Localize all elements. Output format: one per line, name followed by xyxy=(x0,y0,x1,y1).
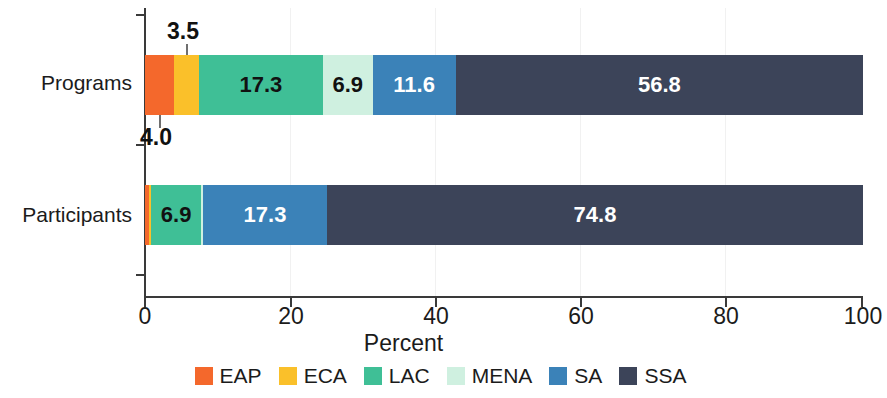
legend-swatch-eap-icon xyxy=(195,367,213,385)
bar-programs: 17.3 6.9 11.6 56.8 xyxy=(145,55,863,115)
bar-segment-participants-lac: 6.9 xyxy=(151,185,201,245)
y-axis-tick-bottom xyxy=(136,274,145,276)
legend-swatch-mena-icon xyxy=(447,367,465,385)
x-axis-tick-0-top xyxy=(144,289,146,298)
callout-line-programs-eca xyxy=(186,44,188,55)
bar-segment-programs-ssa: 56.8 xyxy=(456,55,863,115)
bar-segment-programs-lac: 17.3 xyxy=(199,55,323,115)
gridline-80 xyxy=(725,8,726,296)
x-tick-label-40: 40 xyxy=(401,303,471,330)
legend-label-eap: EAP xyxy=(220,365,262,386)
bar-participants: 6.9 17.3 74.8 xyxy=(145,185,863,245)
legend-label-eca: ECA xyxy=(304,365,347,386)
bar-segment-programs-sa: 11.6 xyxy=(373,55,456,115)
x-axis-line xyxy=(144,296,863,298)
legend-swatch-lac-icon xyxy=(364,367,382,385)
legend-item-sa: SA xyxy=(549,365,602,386)
bar-value-participants-sa: 17.3 xyxy=(244,204,287,226)
category-label-participants: Participants xyxy=(0,203,132,227)
legend-item-ssa: SSA xyxy=(619,365,686,386)
bar-segment-programs-eca xyxy=(174,55,199,115)
x-tick-label-60: 60 xyxy=(546,303,616,330)
legend-label-mena: MENA xyxy=(472,365,533,386)
chart-legend: EAP ECA LAC MENA SA SSA xyxy=(0,365,881,386)
legend-swatch-sa-icon xyxy=(549,367,567,385)
gridline-60 xyxy=(580,8,581,296)
x-tick-label-0: 0 xyxy=(110,303,180,330)
bar-segment-programs-eap xyxy=(145,55,174,115)
y-axis-tick-top xyxy=(136,14,145,16)
bar-segment-participants-sa: 17.3 xyxy=(203,185,327,245)
gridline-40 xyxy=(435,8,436,296)
legend-label-lac: LAC xyxy=(389,365,430,386)
category-label-programs: Programs xyxy=(0,71,132,95)
legend-label-sa: SA xyxy=(574,365,602,386)
legend-swatch-ssa-icon xyxy=(619,367,637,385)
x-axis-title: Percent xyxy=(0,330,881,357)
legend-item-mena: MENA xyxy=(447,365,533,386)
bar-value-programs-sa: 11.6 xyxy=(393,74,435,96)
x-tick-label-80: 80 xyxy=(691,303,761,330)
x-tick-label-100: 100 xyxy=(828,303,887,330)
y-axis-line xyxy=(144,8,146,298)
gridline-20 xyxy=(290,8,291,296)
legend-label-ssa: SSA xyxy=(644,365,686,386)
legend-swatch-eca-icon xyxy=(279,367,297,385)
x-tick-label-20: 20 xyxy=(256,303,326,330)
x-axis-title-text: Percent xyxy=(364,330,443,357)
bar-value-participants-ssa: 74.8 xyxy=(574,204,617,226)
callout-label-programs-eca: 3.5 xyxy=(167,18,199,45)
bar-value-participants-lac: 6.9 xyxy=(161,204,192,226)
bar-value-programs-mena: 6.9 xyxy=(332,74,363,96)
legend-item-lac: LAC xyxy=(364,365,430,386)
bar-segment-programs-mena: 6.9 xyxy=(323,55,373,115)
legend-item-eca: ECA xyxy=(279,365,347,386)
callout-label-programs-eap: 4.0 xyxy=(140,124,172,151)
bar-segment-participants-ssa: 74.8 xyxy=(327,185,863,245)
bar-value-programs-lac: 17.3 xyxy=(239,74,282,96)
legend-item-eap: EAP xyxy=(195,365,262,386)
bar-value-programs-ssa: 56.8 xyxy=(638,74,681,96)
